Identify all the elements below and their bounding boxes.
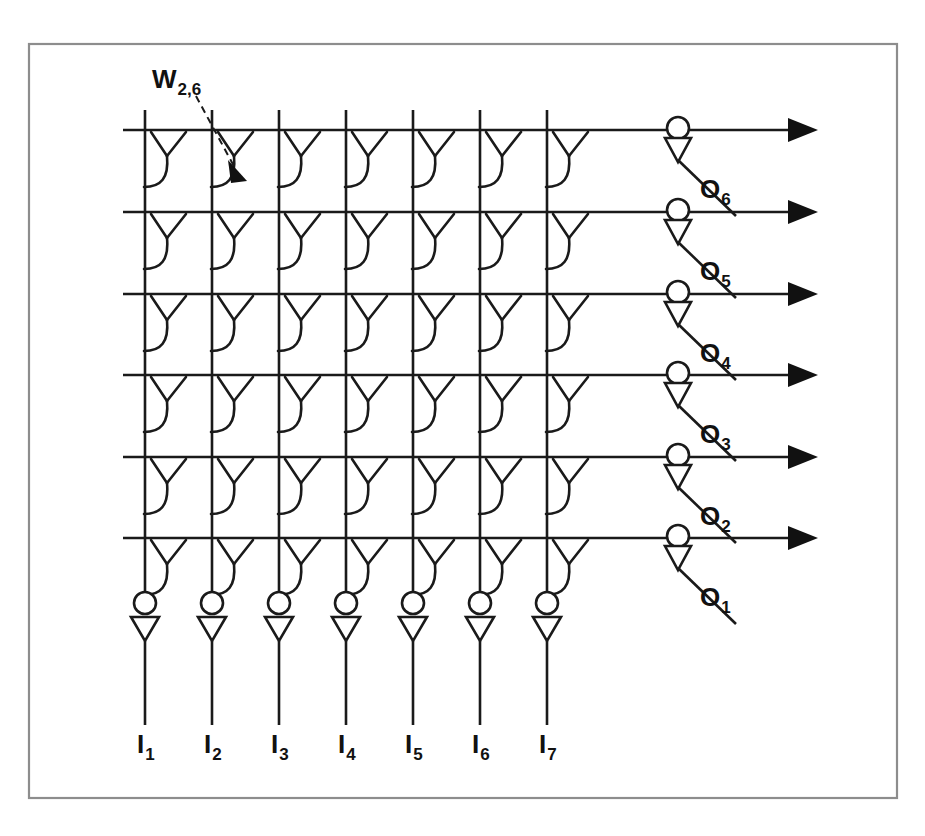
synapse-cell (412, 296, 454, 351)
input-neuron-body (402, 592, 424, 614)
synapse-cell (144, 214, 186, 269)
input-neuron-triangle (399, 617, 427, 641)
output-neuron-group (665, 117, 818, 624)
output-neuron (665, 281, 818, 380)
input-neuron (466, 592, 494, 725)
synapse-cell (278, 377, 320, 432)
input-neuron-triangle (332, 617, 360, 641)
synapse-cell (211, 296, 253, 351)
output-neuron-body (667, 199, 689, 221)
synapse-cell (546, 459, 588, 514)
output-neuron-body (667, 362, 689, 384)
figure-border (29, 44, 897, 798)
input-neuron (533, 592, 561, 725)
input-label: I7 (539, 729, 557, 764)
synapse-cell (412, 377, 454, 432)
input-label: I3 (271, 729, 289, 764)
output-neuron-triangle (665, 383, 691, 407)
input-neuron-body (201, 592, 223, 614)
synapse-cell (546, 540, 588, 595)
synapse-cell (211, 377, 253, 432)
input-neuron (131, 592, 159, 725)
input-label: I6 (472, 729, 490, 764)
synapse-cell (144, 459, 186, 514)
input-neuron (198, 592, 226, 725)
crossbar-diagram-canvas: W2,6O1O2O3O4O5O6I1I2I3I4I5I6I7 (0, 0, 925, 836)
output-arrowhead (788, 526, 818, 550)
synapse-cell (412, 214, 454, 269)
synapse-cell (546, 214, 588, 269)
input-label: I5 (405, 729, 423, 764)
synapse-cell (479, 540, 521, 595)
input-neuron-body (134, 592, 156, 614)
output-arrowhead (788, 200, 818, 224)
output-arrowhead (788, 282, 818, 306)
output-arrowhead (788, 363, 818, 387)
weight-callout-arrowhead (228, 160, 247, 183)
output-neuron-triangle (665, 465, 691, 489)
output-neuron (665, 444, 818, 543)
output-neuron-body (667, 525, 689, 547)
synapse-cell (412, 132, 454, 187)
output-neuron-triangle (665, 302, 691, 326)
synapse-cell (278, 459, 320, 514)
input-label: I2 (204, 729, 222, 764)
output-neuron-triangle (665, 138, 691, 162)
input-neuron (332, 592, 360, 725)
synapse-cell (278, 214, 320, 269)
input-neuron-triangle (466, 617, 494, 641)
input-neuron (265, 592, 293, 725)
input-neuron-body (469, 592, 491, 614)
weight-label: W2,6 (152, 64, 201, 99)
synapse-cell (144, 296, 186, 351)
synapse-cell (278, 296, 320, 351)
input-neuron-body (536, 592, 558, 614)
input-neuron-triangle (533, 617, 561, 641)
output-neuron (665, 199, 818, 298)
output-label: O2 (700, 501, 731, 536)
output-neuron-triangle (665, 220, 691, 244)
synapse-cell (345, 377, 387, 432)
output-neuron-body (667, 281, 689, 303)
synapse-cell (479, 132, 521, 187)
input-neuron-triangle (265, 617, 293, 641)
synapse-cell (479, 377, 521, 432)
output-arrowhead (788, 118, 818, 142)
synapse-cell (345, 459, 387, 514)
synapse-cell (345, 132, 387, 187)
input-neuron-body (335, 592, 357, 614)
synapse-cell (546, 132, 588, 187)
weight-callout-line (196, 96, 236, 170)
output-neuron (665, 117, 818, 216)
synapse-cell (345, 540, 387, 595)
synapse-cell (412, 540, 454, 595)
crossbar-diagram-figure: W2,6O1O2O3O4O5O6I1I2I3I4I5I6I7 (0, 0, 925, 836)
synapse-cell (479, 459, 521, 514)
input-neuron-triangle (131, 617, 159, 641)
synapse-cell (479, 214, 521, 269)
synapse-cell (211, 459, 253, 514)
synapse-cell (345, 214, 387, 269)
output-neuron (665, 362, 818, 461)
synapse-cell (345, 296, 387, 351)
output-neuron-body (667, 444, 689, 466)
output-label: O3 (700, 419, 731, 454)
input-label: I1 (137, 729, 155, 764)
input-neuron (399, 592, 427, 725)
output-neuron (665, 525, 818, 624)
output-label: O1 (700, 582, 731, 617)
output-label: O6 (700, 174, 731, 209)
synapse-cell (278, 132, 320, 187)
output-neuron-triangle (665, 546, 691, 570)
synapse-group (144, 132, 588, 595)
synapse-cell (412, 459, 454, 514)
synapse-cell (479, 296, 521, 351)
input-label: I4 (338, 729, 356, 764)
synapse-cell (144, 377, 186, 432)
synapse-cell (278, 540, 320, 595)
synapse-cell (144, 132, 186, 187)
output-neuron-body (667, 117, 689, 139)
input-neuron-body (268, 592, 290, 614)
output-arrowhead (788, 445, 818, 469)
synapse-cell (211, 540, 253, 595)
